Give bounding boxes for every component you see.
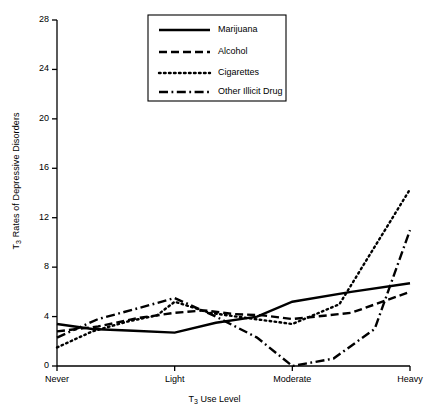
series-line-marijuana — [57, 283, 410, 332]
y-tick-label: 8 — [23, 262, 49, 271]
legend-label: Cigarettes — [218, 68, 259, 77]
y-axis-title-subscript: 3 — [15, 240, 22, 244]
y-tick-label: 20 — [23, 114, 49, 123]
y-axis-title-prefix: T — [11, 244, 21, 250]
y-tick-label: 16 — [23, 163, 49, 172]
chart-figure: T3 Rates of Depressive Disorders T3 Use … — [0, 0, 429, 419]
y-tick-label: 0 — [23, 361, 49, 370]
chart-canvas — [0, 0, 429, 419]
y-axis-title: T3 Rates of Depressive Disorders — [11, 111, 21, 251]
x-axis-title-rest: Use Level — [198, 394, 241, 404]
legend-label: Alcohol — [218, 47, 248, 56]
series-line-alcohol — [57, 292, 410, 332]
x-tick-label: Moderate — [257, 375, 327, 384]
y-axis-title-rest: Rates of Depressive Disorders — [11, 112, 21, 240]
x-tick-label: Heavy — [375, 375, 429, 384]
series-group — [57, 189, 410, 366]
legend-label: Marijuana — [218, 25, 258, 34]
y-tick-label: 24 — [23, 64, 49, 73]
y-tick-label: 12 — [23, 213, 49, 222]
x-tick-label: Light — [140, 375, 210, 384]
legend-label: Other Illicit Drug — [218, 87, 283, 96]
y-tick-label: 28 — [23, 15, 49, 24]
x-axis-title: T3 Use Level — [0, 394, 429, 404]
series-line-other-illicit-drug — [57, 230, 410, 366]
x-tick-label: Never — [22, 375, 92, 384]
y-tick-label: 4 — [23, 312, 49, 321]
x-axis-title-subscript: 3 — [194, 398, 198, 405]
